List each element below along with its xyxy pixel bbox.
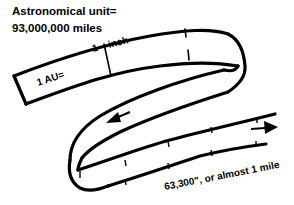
tick-unit: inch — [107, 34, 130, 50]
arrow-right-icon — [251, 121, 278, 134]
title-line-2: 93,000,000 miles — [12, 22, 102, 34]
tape-right-curl — [185, 29, 245, 92]
astronomical-unit-tape-diagram: Astronomical unit= 93,000,000 miles — [0, 0, 294, 205]
scale-label: 1 AU= — [35, 69, 65, 88]
arrow-left-icon — [106, 112, 130, 123]
title-line-1: Astronomical unit= — [12, 5, 117, 17]
